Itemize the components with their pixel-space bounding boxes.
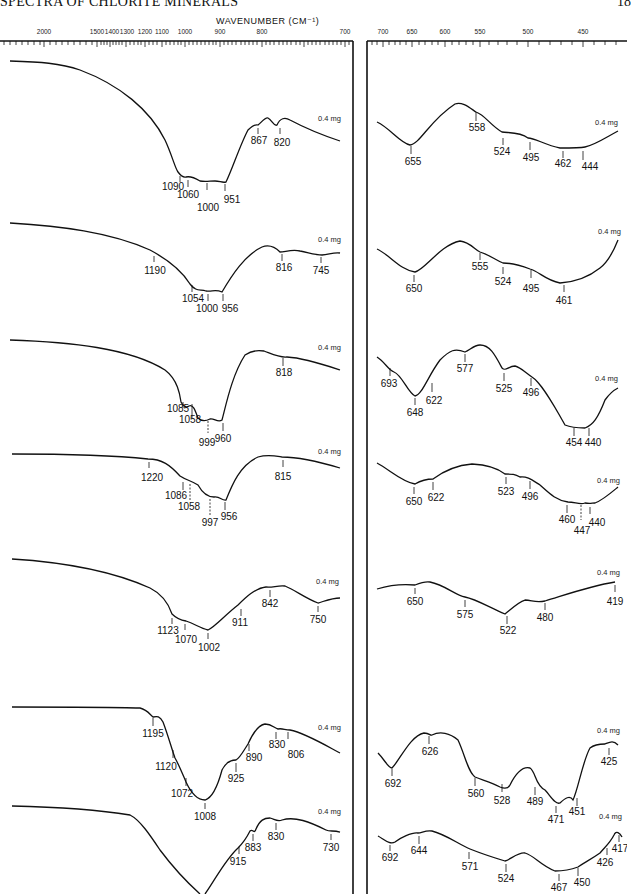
svg-text:622: 622 bbox=[426, 395, 443, 406]
svg-text:0.4 mg: 0.4 mg bbox=[598, 227, 621, 236]
right-spectrum-5: 650 575 522 480 419 0.4 mg bbox=[377, 568, 624, 636]
svg-text:577: 577 bbox=[457, 363, 474, 374]
svg-text:0.4 mg: 0.4 mg bbox=[318, 447, 341, 456]
svg-text:500: 500 bbox=[523, 28, 534, 35]
right-spectrum-7: 692 644 571 524 467 450 426 417 0.4 mg bbox=[378, 812, 627, 893]
svg-text:1500: 1500 bbox=[90, 28, 105, 35]
svg-text:425: 425 bbox=[601, 756, 618, 767]
left-axis-tick-labels: 2000 1500 1400 1300 1200 1100 1000 900 8… bbox=[37, 28, 351, 35]
svg-text:650: 650 bbox=[406, 496, 423, 507]
svg-text:571: 571 bbox=[462, 861, 479, 872]
svg-text:471: 471 bbox=[548, 814, 565, 825]
right-spectrum-2: 650 555 524 495 461 0.4 mg bbox=[377, 227, 621, 306]
svg-text:956: 956 bbox=[221, 511, 238, 522]
svg-text:467: 467 bbox=[551, 882, 568, 893]
svg-text:1008: 1008 bbox=[194, 811, 217, 822]
svg-text:650: 650 bbox=[407, 596, 424, 607]
svg-text:815: 815 bbox=[275, 471, 292, 482]
svg-text:915: 915 bbox=[230, 856, 247, 867]
svg-text:0.4 mg: 0.4 mg bbox=[318, 807, 341, 816]
left-spectrum-1: 1090 1060 1000 951 867 820 0.4 mg bbox=[10, 61, 341, 213]
svg-text:1400: 1400 bbox=[105, 28, 120, 35]
svg-text:692: 692 bbox=[385, 778, 402, 789]
svg-text:820: 820 bbox=[274, 137, 291, 148]
svg-text:1190: 1190 bbox=[144, 265, 166, 276]
svg-text:0.4 mg: 0.4 mg bbox=[595, 118, 618, 127]
svg-text:700: 700 bbox=[378, 28, 389, 35]
right-spectrum-1: 655 558 524 495 462 444 0.4 mg bbox=[377, 103, 618, 172]
right-spectrum-6: 692 626 560 528 489 471 451 425 0.4 mg bbox=[378, 726, 620, 825]
svg-text:560: 560 bbox=[468, 788, 485, 799]
svg-text:2000: 2000 bbox=[37, 28, 52, 35]
svg-text:523: 523 bbox=[498, 486, 515, 497]
svg-text:648: 648 bbox=[407, 407, 424, 418]
svg-text:997: 997 bbox=[202, 517, 219, 528]
svg-text:800: 800 bbox=[257, 28, 268, 35]
svg-text:750: 750 bbox=[310, 614, 327, 625]
svg-text:525: 525 bbox=[496, 383, 513, 394]
svg-text:1220: 1220 bbox=[141, 472, 164, 483]
svg-text:956: 956 bbox=[222, 303, 239, 314]
svg-text:462: 462 bbox=[555, 158, 572, 169]
svg-text:1072: 1072 bbox=[171, 788, 194, 799]
svg-text:1002: 1002 bbox=[198, 642, 221, 653]
svg-text:0.4 mg: 0.4 mg bbox=[316, 577, 339, 586]
left-spectrum-6: 1195 1120 1072 1008 925 890 830 806 0.4 … bbox=[12, 707, 341, 822]
svg-text:496: 496 bbox=[523, 387, 540, 398]
svg-text:693: 693 bbox=[381, 378, 398, 389]
svg-text:1300: 1300 bbox=[120, 28, 135, 35]
svg-text:730: 730 bbox=[323, 842, 340, 853]
svg-text:0.4 mg: 0.4 mg bbox=[318, 235, 341, 244]
left-spectrum-4: 1220 1086 1058 997 956 815 0.4 mg bbox=[12, 447, 341, 528]
svg-text:951: 951 bbox=[224, 194, 241, 205]
svg-text:890: 890 bbox=[246, 752, 263, 763]
svg-text:558: 558 bbox=[469, 122, 486, 133]
svg-text:0.4 mg: 0.4 mg bbox=[318, 114, 341, 123]
svg-text:495: 495 bbox=[523, 152, 540, 163]
svg-text:650: 650 bbox=[407, 28, 418, 35]
svg-text:0.4 mg: 0.4 mg bbox=[599, 812, 622, 821]
svg-text:555: 555 bbox=[472, 261, 489, 272]
svg-text:450: 450 bbox=[574, 877, 591, 888]
svg-text:496: 496 bbox=[522, 491, 539, 502]
right-spectrum-4: 650 622 523 496 460 447 440 0.4 mg bbox=[377, 463, 620, 536]
svg-text:1200: 1200 bbox=[138, 28, 153, 35]
svg-text:830: 830 bbox=[269, 739, 286, 750]
svg-text:426: 426 bbox=[597, 857, 614, 868]
svg-text:550: 550 bbox=[475, 28, 486, 35]
svg-text:495: 495 bbox=[523, 283, 540, 294]
svg-text:622: 622 bbox=[428, 492, 445, 503]
svg-text:0.4 mg: 0.4 mg bbox=[597, 476, 620, 485]
svg-text:0.4 mg: 0.4 mg bbox=[318, 723, 341, 732]
svg-text:900: 900 bbox=[215, 28, 226, 35]
svg-text:522: 522 bbox=[500, 625, 517, 636]
svg-text:0.4 mg: 0.4 mg bbox=[595, 374, 618, 383]
svg-text:1000: 1000 bbox=[196, 303, 219, 314]
svg-text:650: 650 bbox=[406, 283, 423, 294]
svg-text:524: 524 bbox=[495, 276, 512, 287]
svg-text:830: 830 bbox=[268, 831, 285, 842]
svg-text:1070: 1070 bbox=[175, 634, 198, 645]
svg-text:0.4 mg: 0.4 mg bbox=[597, 726, 620, 735]
svg-text:489: 489 bbox=[527, 796, 544, 807]
svg-text:480: 480 bbox=[537, 612, 554, 623]
svg-text:0.4 mg: 0.4 mg bbox=[597, 568, 620, 577]
svg-text:1000: 1000 bbox=[178, 28, 193, 35]
svg-text:960: 960 bbox=[215, 433, 232, 444]
svg-text:600: 600 bbox=[440, 28, 451, 35]
svg-text:692: 692 bbox=[382, 852, 399, 863]
svg-text:867: 867 bbox=[251, 135, 268, 146]
svg-text:1058: 1058 bbox=[178, 501, 201, 512]
right-axis-tick-labels: 700 650 600 550 500 450 bbox=[378, 28, 589, 35]
svg-text:911: 911 bbox=[232, 617, 248, 628]
svg-text:444: 444 bbox=[582, 161, 599, 172]
svg-text:883: 883 bbox=[245, 842, 262, 853]
left-spectrum-3: 1085 1058 999 960 818 0.4 mg bbox=[10, 340, 341, 448]
svg-text:440: 440 bbox=[585, 437, 602, 448]
svg-text:1086: 1086 bbox=[165, 490, 188, 501]
svg-text:419: 419 bbox=[607, 596, 624, 607]
svg-text:1060: 1060 bbox=[177, 189, 200, 200]
svg-text:1195: 1195 bbox=[142, 728, 164, 739]
svg-text:700: 700 bbox=[340, 28, 351, 35]
svg-text:460: 460 bbox=[559, 514, 576, 525]
